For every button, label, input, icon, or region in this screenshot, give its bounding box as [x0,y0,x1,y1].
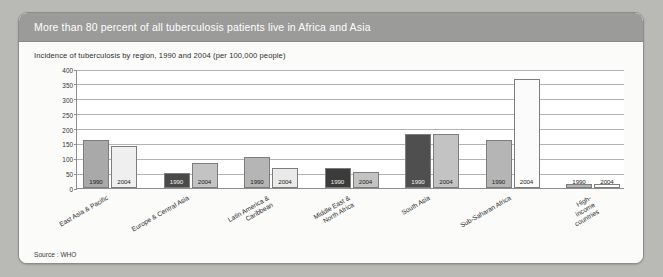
bar-1990: 1990 [325,168,351,188]
source-note: Source : WHO [34,251,77,258]
y-axis-tick-label: 300 [62,96,73,103]
chart-body: Incidence of tuberculosis by region, 199… [19,42,643,264]
plot-canvas: 050100150200250300350400 199020041990200… [76,70,624,189]
category-label-text: East Asia & Pacific [58,194,110,229]
bar-1990: 1990 [83,140,109,188]
chart-panel: More than 80 percent of all tuberculosis… [18,12,644,264]
category-label-text: Middle East & North Africa [312,194,355,229]
y-axis-tick-label: 150 [62,141,73,148]
y-axis-tick-label: 400 [62,67,73,74]
bar-2004: 2004 [514,79,540,188]
y-axis-tick-label: 250 [62,111,73,118]
category-labels: East Asia & PacificEurope & Central Asia… [76,192,624,250]
bar-group: 19902004 [486,70,540,188]
plot-area: 050100150200250300350400 199020041990200… [76,70,624,189]
bar-groups: 1990200419902004199020041990200419902004… [77,70,624,188]
bar-year-label: 1990 [411,179,424,187]
bar-year-label: 1990 [492,179,505,187]
y-axis-tick-mark [74,189,77,190]
category-label-text: South Asia [400,194,431,217]
bar-group: 19902004 [566,70,620,188]
bar-1990: 1990 [566,184,592,188]
bar-1990: 1990 [244,157,270,188]
y-axis-tick-label: 350 [62,81,73,88]
bar-group: 19902004 [83,70,137,188]
y-axis-tick-label: 0 [69,186,73,193]
chart-subtitle: Incidence of tuberculosis by region, 199… [34,51,286,60]
category-label-text: High-income countries [561,194,601,231]
bar-year-label: 1990 [572,179,585,187]
category-label-text: Sub-Saharan Africa [459,194,513,230]
y-axis-tick-label: 100 [62,156,73,163]
bar-1990: 1990 [405,134,431,188]
category-label-text: Latin America & Caribbean [227,194,275,231]
bar-group: 19902004 [164,70,218,188]
bar-1990: 1990 [164,173,190,188]
bar-year-label: 1990 [331,179,344,187]
y-axis-tick-label: 200 [62,126,73,133]
chart-header: More than 80 percent of all tuberculosis… [19,13,643,42]
chart-title: More than 80 percent of all tuberculosis… [34,21,371,33]
category-label-text: Europe & Central Asia [130,194,190,234]
bar-group: 19902004 [325,70,379,188]
y-axis-tick-label: 50 [66,171,73,178]
bar-1990: 1990 [486,140,512,188]
bar-year-label: 1990 [170,179,183,187]
bar-year-label: 1990 [250,179,263,187]
bar-year-label: 1990 [89,179,102,187]
bar-group: 19902004 [405,70,459,188]
bar-group: 19902004 [244,70,298,188]
